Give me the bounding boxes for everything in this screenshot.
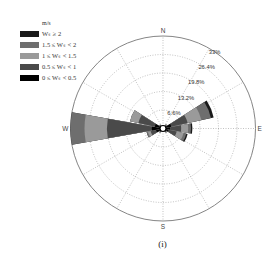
legend-swatch [20,31,39,37]
legend-swatch [20,64,39,70]
compass-label-s: S [161,223,166,230]
radial-tick-label: 6.6% [167,110,180,116]
legend-item-ws-0-0_5: 0 ≤ Wₛ < 0.5 [20,74,76,82]
compass-label-e: E [258,125,263,132]
compass-label-w: W [62,125,69,132]
figure-caption: (i) [0,239,279,249]
compass-label-n: N [161,27,166,34]
legend-item-ws-0_5-1: 0.5 ≤ Wₛ < 1 [20,63,76,71]
legend-label: Wₛ ≥ 2 [42,30,61,38]
wind-rose-chart: NSEW6.6%13.2%19.8%26.4%33% [0,0,279,266]
legend-swatch [20,53,39,59]
radial-tick-label: 13.2% [178,95,194,101]
center-marker [160,126,166,132]
legend-item-ws-1-1_5: 1 ≤ Wₛ < 1.5 [20,52,76,60]
grid-spoke [163,129,209,209]
legend-swatch [20,75,39,81]
radial-tick-label: 33% [209,49,221,55]
radial-tick-label: 26.4% [198,64,214,70]
grid-spoke [117,129,163,209]
legend-label: 0.5 ≤ Wₛ < 1 [42,63,76,71]
radial-tick-label: 19.8% [188,79,204,85]
legend-swatch [20,42,39,48]
wind-rose-petals [71,101,214,145]
legend-label: 0 ≤ Wₛ < 0.5 [42,74,76,82]
legend-unit: m/s [42,20,51,26]
legend-item-ws-1_5-2: 1.5 ≤ Wₛ < 2 [20,41,76,49]
legend-label: 1.5 ≤ Wₛ < 2 [42,41,76,49]
legend-label: 1 ≤ Wₛ < 1.5 [42,52,76,60]
legend-item-ws-ge-2: Wₛ ≥ 2 [20,30,61,38]
